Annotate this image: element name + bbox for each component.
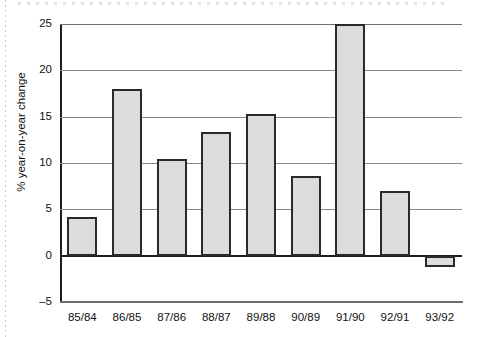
x-tick-label-91-90: 91/90	[325, 311, 375, 323]
bar-91-90	[335, 24, 365, 256]
y-tick-label--5: –5	[6, 296, 52, 308]
bar-92-91	[380, 191, 410, 256]
y-axis-tick-labels: –50510152025	[0, 0, 52, 337]
bar-87-86	[157, 159, 187, 255]
x-tick-label-87-86: 87/86	[147, 311, 197, 323]
plot-area	[60, 24, 462, 302]
bar-88-87	[201, 132, 231, 255]
y-tick-label-5: 5	[6, 203, 52, 215]
gridline-20	[60, 70, 462, 71]
bar-93-92	[425, 256, 455, 267]
y-tick-label-25: 25	[6, 18, 52, 30]
x-tick-label-88-87: 88/87	[191, 311, 241, 323]
bar-90-89	[291, 176, 321, 256]
y-tick-label-20: 20	[6, 64, 52, 76]
gridline-25	[60, 24, 462, 25]
bar-85-84	[67, 217, 97, 256]
y-tick-label-10: 10	[6, 157, 52, 169]
x-tick-label-92-91: 92/91	[370, 311, 420, 323]
bar-chart-figure: % year-on-year change –50510152025 85/84…	[0, 0, 480, 337]
x-tick-label-90-89: 90/89	[281, 311, 331, 323]
x-tick-label-86-85: 86/85	[102, 311, 152, 323]
x-tick-label-89-88: 89/88	[236, 311, 286, 323]
y-tick-label-15: 15	[6, 111, 52, 123]
bar-86-85	[112, 89, 142, 256]
y-tick-label-0: 0	[6, 250, 52, 262]
bar-89-88	[246, 114, 276, 256]
x-tick-label-93-92: 93/92	[415, 311, 465, 323]
x-tick-label-85-84: 85/84	[57, 311, 107, 323]
